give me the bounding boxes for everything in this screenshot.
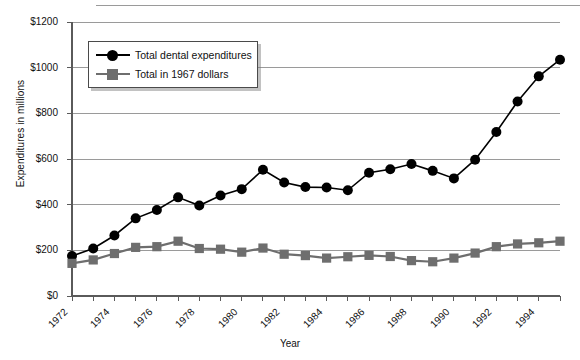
data-point-marker xyxy=(322,183,332,193)
data-point-marker xyxy=(343,252,352,261)
data-point-marker xyxy=(428,257,437,266)
legend-item-total-in-1967-dollars: Total in 1967 dollars xyxy=(96,66,228,82)
data-point-marker xyxy=(513,239,522,248)
legend-item-total-dental-expenditures: Total dental expenditures xyxy=(96,47,252,63)
data-point-marker xyxy=(152,242,161,251)
data-point-marker xyxy=(67,259,76,268)
data-point-marker xyxy=(279,178,289,188)
data-point-marker xyxy=(216,245,225,254)
data-point-marker xyxy=(470,155,480,165)
series-line xyxy=(72,241,560,263)
data-point-marker xyxy=(534,71,544,81)
data-point-marker xyxy=(237,184,247,194)
data-point-marker xyxy=(110,249,119,258)
data-point-marker xyxy=(471,248,480,257)
data-point-marker xyxy=(258,243,267,252)
data-point-marker xyxy=(109,230,119,240)
data-point-marker xyxy=(195,244,204,253)
data-point-marker xyxy=(534,238,543,247)
plot-canvas xyxy=(0,0,580,360)
data-point-marker xyxy=(343,185,353,195)
data-point-marker xyxy=(491,127,501,137)
data-point-marker xyxy=(173,192,183,202)
data-point-marker xyxy=(194,201,204,211)
chart-figure: Expenditures in millions Year $0$200$400… xyxy=(0,0,580,360)
series-line xyxy=(72,60,560,256)
data-point-marker xyxy=(131,213,141,223)
data-point-marker xyxy=(386,252,395,261)
data-point-marker xyxy=(492,242,501,251)
series-lines xyxy=(72,60,560,264)
data-point-marker xyxy=(88,244,98,254)
data-point-marker xyxy=(300,182,310,192)
data-point-marker xyxy=(237,248,246,257)
data-point-marker xyxy=(301,251,310,260)
data-point-marker xyxy=(406,159,416,169)
chart-legend: Total dental expenditures Total in 1967 … xyxy=(88,41,258,88)
data-point-marker xyxy=(364,251,373,260)
data-point-marker xyxy=(280,250,289,259)
data-point-marker xyxy=(173,237,182,246)
data-point-marker xyxy=(322,254,331,263)
data-point-marker xyxy=(428,166,438,176)
legend-swatch-circle xyxy=(96,48,130,62)
legend-label-0: Total dental expenditures xyxy=(135,49,252,61)
data-point-marker xyxy=(449,173,459,183)
data-point-marker xyxy=(385,164,395,174)
data-point-marker xyxy=(513,96,523,106)
data-point-marker xyxy=(555,237,564,246)
data-point-marker xyxy=(407,256,416,265)
data-point-marker xyxy=(364,168,374,178)
data-point-marker xyxy=(152,205,162,215)
data-point-marker xyxy=(131,243,140,252)
data-point-marker xyxy=(258,165,268,175)
data-point-marker xyxy=(449,254,458,263)
data-point-marker xyxy=(555,55,565,65)
legend-swatch-square xyxy=(96,67,130,81)
legend-label-1: Total in 1967 dollars xyxy=(135,68,228,80)
data-point-marker xyxy=(216,191,226,201)
data-point-marker xyxy=(89,255,98,264)
